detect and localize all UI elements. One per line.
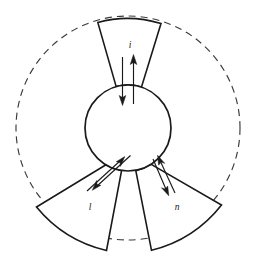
figure-canvas: i l n xyxy=(0,0,259,263)
sector-top-label: i xyxy=(129,40,132,50)
sector-bottom-left-shape xyxy=(37,165,122,251)
radial-sector-diagram: i l n xyxy=(0,0,259,263)
sector-bottom-right-label: n xyxy=(175,202,180,212)
sector-bottom-left-label: l xyxy=(89,202,92,212)
sector-top-shape xyxy=(98,18,161,86)
